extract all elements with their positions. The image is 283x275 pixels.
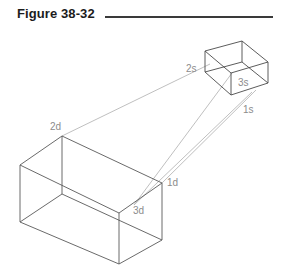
object-box-top-face (20, 136, 162, 213)
vertex-label-1s: 1s (243, 104, 254, 115)
vertex-label-1d: 1d (167, 177, 178, 188)
figure-38-32: Figure 38-32 2d 1d 3d 2s 3s (0, 0, 283, 275)
image-box-top-face (205, 41, 268, 73)
image-box (205, 41, 268, 95)
image-box-bottom-face (205, 62, 268, 95)
figure-drawing-canvas (0, 0, 283, 275)
object-box (20, 136, 162, 264)
vertex-label-3s: 3s (238, 77, 249, 88)
ray-3d-1s (134, 92, 252, 205)
ray-2d-2s (62, 64, 210, 136)
ray-group (62, 64, 256, 205)
vertex-label-2s: 2s (186, 63, 197, 74)
vertex-label-2d: 2d (50, 121, 61, 132)
vertex-label-3d: 3d (133, 205, 144, 216)
ray-3d-3s (134, 73, 232, 205)
